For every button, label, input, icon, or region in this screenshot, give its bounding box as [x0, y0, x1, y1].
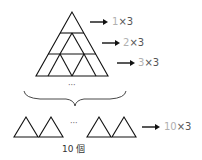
curly-brace-icon [24, 91, 126, 106]
count-label: 10 個 [62, 144, 85, 155]
bottom-triangle-2 [39, 117, 63, 137]
row-1-label: 1×3 [112, 16, 133, 28]
row-1-multiplier: ×3 [118, 16, 133, 27]
bottom-row-ellipsis: ··· [70, 120, 78, 128]
bottom-triangle-3 [87, 117, 111, 137]
bottom-triangle-4 [112, 117, 136, 137]
diagram-canvas [0, 0, 202, 160]
bottom-row-count: 10 [164, 121, 177, 132]
bottom-triangle-1 [14, 117, 38, 137]
row-3-label: 3×3 [138, 57, 159, 69]
pyramid-ellipsis: ··· [68, 82, 76, 90]
row-arrows [90, 19, 160, 130]
row-2-label: 2×3 [123, 37, 144, 49]
bottom-row-label: 10×3 [164, 121, 191, 133]
row-3-multiplier: ×3 [144, 57, 159, 68]
bottom-row-multiplier: ×3 [177, 121, 192, 132]
row-2-multiplier: ×3 [129, 37, 144, 48]
